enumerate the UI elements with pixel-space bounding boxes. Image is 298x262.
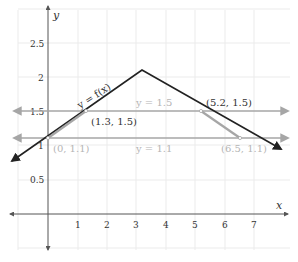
point-label-1-3-1-5: (1.3, 1.5)	[91, 116, 137, 127]
y-tick: 2	[38, 73, 44, 83]
point-label-6-5-1-1: (6.5, 1.1)	[221, 143, 267, 154]
y-tick: 0.5	[30, 175, 45, 185]
segment-left-highlight	[48, 111, 86, 138]
y-axis-label: y	[52, 9, 60, 22]
point-label-0-1-1: (0, 1.1)	[53, 143, 90, 154]
point-1-3-1-5	[84, 109, 87, 112]
line-label-y-1-5: y = 1.5	[135, 97, 172, 108]
x-tick: 2	[104, 220, 110, 230]
point-0-1-1	[46, 136, 49, 139]
y-tick-labels: 0.5 1 1.5 2 2.5	[30, 39, 45, 185]
y-tick: 1.5	[30, 107, 45, 117]
x-tick: 3	[133, 220, 139, 230]
x-tick: 6	[222, 220, 228, 230]
x-tick: 7	[251, 220, 257, 230]
line-label-y-1-1: y = 1.1	[135, 143, 172, 154]
x-axis-label: x	[276, 199, 283, 212]
x-tick: 5	[192, 220, 198, 230]
x-tick: 1	[75, 220, 81, 230]
x-tick: 4	[163, 220, 169, 230]
point-label-5-2-1-5: (5.2, 1.5)	[206, 97, 252, 108]
chart-plot: y x 1 2 3 4 5 6 7 0.5 1 1.5 2 2.5 y = f(…	[0, 0, 298, 262]
point-6-5-1-1	[238, 136, 241, 139]
x-tick-labels: 1 2 3 4 5 6 7	[75, 220, 257, 230]
point-5-2-1-5	[199, 109, 202, 112]
y-tick: 2.5	[30, 39, 45, 49]
